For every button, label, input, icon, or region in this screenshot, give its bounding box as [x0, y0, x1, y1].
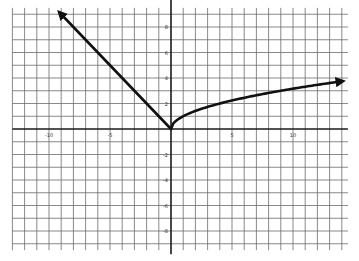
- y-tick-label: -8: [163, 228, 168, 234]
- y-tick-label: -6: [163, 203, 168, 209]
- x-tick-label: -10: [45, 132, 53, 138]
- function-graph: -10-55108642-2-4-6-8: [0, 0, 359, 261]
- curves: [60, 13, 342, 129]
- x-tick-label: -5: [108, 132, 113, 138]
- y-tick-label: 8: [165, 24, 168, 30]
- y-tick-label: 6: [165, 50, 168, 56]
- x-tick-label: 10: [290, 132, 296, 138]
- y-tick-label: -4: [163, 177, 168, 183]
- x-tick-label: 5: [230, 132, 233, 138]
- axes: [12, 0, 348, 254]
- curve-left-branch: [60, 13, 171, 129]
- y-tick-label: 4: [165, 75, 168, 81]
- y-tick-label: -2: [163, 152, 168, 158]
- y-tick-label: 2: [165, 101, 168, 107]
